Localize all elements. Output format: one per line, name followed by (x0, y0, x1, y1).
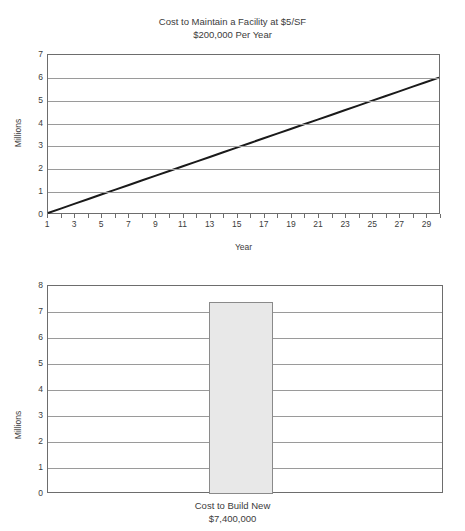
chart1-x-tick-mark (250, 214, 251, 218)
chart1-x-axis-title: Year (47, 242, 440, 252)
chart1-x-tick-mark (155, 214, 156, 218)
chart1-x-tick-mark (291, 214, 292, 218)
chart2-y-tick: 4 (38, 385, 43, 394)
chart1-x-tick-mark (61, 214, 62, 218)
chart1-x-tick: 19 (286, 219, 295, 229)
chart1-x-tick-mark (101, 214, 102, 218)
chart2-y-axis-title: Millions (13, 400, 23, 450)
chart1-x-tick-mark (440, 214, 441, 218)
chart1-y-tick: 4 (38, 118, 43, 127)
chart1-x-tick: 23 (340, 219, 349, 229)
chart1-x-tick: 21 (313, 219, 322, 229)
chart1-title-line2: $200,000 Per Year (0, 29, 465, 42)
chart1-x-tick-labels: 1357911131517192123252729 (47, 219, 440, 233)
chart1-y-tick: 3 (38, 141, 43, 150)
chart1-x-tick-mark (399, 214, 400, 218)
chart1-title-line1: Cost to Maintain a Facility at $5/SF (0, 16, 465, 29)
bar-chart-build-new-cost: Millions 876543210 Cost to Build New $7,… (0, 262, 465, 531)
chart2-plot-area (47, 285, 443, 493)
chart1-x-tick-mark (277, 214, 278, 218)
chart2-caption-line1: Cost to Build New (0, 500, 465, 513)
chart1-x-tick-mark (47, 214, 48, 218)
chart1-x-tick-mark (413, 214, 414, 218)
chart1-x-tick-mark (88, 214, 89, 218)
chart1-x-tick-mark (210, 214, 211, 218)
bar-cost-to-build-new (209, 302, 273, 494)
chart1-x-tick-mark (264, 214, 265, 218)
chart1-title: Cost to Maintain a Facility at $5/SF $20… (0, 16, 465, 41)
chart1-y-tick: 5 (38, 95, 43, 104)
chart1-x-tick-mark (345, 214, 346, 218)
chart1-x-tick-mark (196, 214, 197, 218)
chart1-x-tick: 17 (259, 219, 268, 229)
chart1-x-tick: 27 (395, 219, 404, 229)
chart1-y-tick: 7 (38, 50, 43, 59)
chart1-x-tick: 11 (178, 219, 187, 229)
chart1-x-tick-mark (237, 214, 238, 218)
chart1-gridline (48, 192, 439, 193)
chart1-y-tick: 2 (38, 164, 43, 173)
chart1-gridline (48, 146, 439, 147)
line-chart-maintenance-cost: Cost to Maintain a Facility at $5/SF $20… (0, 0, 465, 262)
chart2-y-tick-labels: 876543210 (28, 278, 43, 500)
chart1-y-tick-labels: 76543210 (28, 47, 43, 221)
chart1-y-axis-title: Millions (13, 108, 23, 158)
chart1-x-tick-mark (183, 214, 184, 218)
chart1-gridline (48, 169, 439, 170)
chart1-x-tick: 3 (72, 219, 77, 229)
chart2-y-tick: 7 (38, 307, 43, 316)
chart1-x-tick-mark (359, 214, 360, 218)
chart1-x-tick-mark (304, 214, 305, 218)
chart2-y-tick: 1 (38, 463, 43, 472)
chart1-y-tick: 6 (38, 72, 43, 81)
chart1-x-tick-mark (426, 214, 427, 218)
chart2-y-tick: 6 (38, 333, 43, 342)
chart1-x-tick-mark (372, 214, 373, 218)
chart1-x-tick: 7 (126, 219, 131, 229)
chart1-gridline (48, 124, 439, 125)
chart1-x-tick-mark (74, 214, 75, 218)
chart1-x-tick-mark (332, 214, 333, 218)
chart1-x-tick-mark (318, 214, 319, 218)
chart1-x-tick-mark (169, 214, 170, 218)
chart2-y-tick: 2 (38, 437, 43, 446)
chart1-gridline (48, 78, 439, 79)
chart1-x-tick-mark (223, 214, 224, 218)
chart1-x-tick-mark (386, 214, 387, 218)
chart2-y-tick: 3 (38, 411, 43, 420)
chart1-x-tick: 1 (45, 219, 50, 229)
chart1-x-tick: 15 (232, 219, 241, 229)
chart1-x-tick-mark (142, 214, 143, 218)
chart1-x-tick: 25 (368, 219, 377, 229)
chart2-caption-line2: $7,400,000 (0, 513, 465, 526)
chart1-x-tick: 13 (205, 219, 214, 229)
chart1-gridline (48, 101, 439, 102)
chart2-caption: Cost to Build New $7,400,000 (0, 500, 465, 525)
chart1-x-tick: 9 (153, 219, 158, 229)
chart1-x-tick: 5 (99, 219, 104, 229)
chart1-y-tick: 1 (38, 187, 43, 196)
chart2-y-tick: 0 (38, 489, 43, 498)
chart1-x-tick-mark (115, 214, 116, 218)
chart2-y-tick: 8 (38, 281, 43, 290)
chart1-x-tick: 29 (422, 219, 431, 229)
chart2-y-tick: 5 (38, 359, 43, 368)
chart1-plot-area (47, 54, 440, 214)
chart1-x-tick-mark (128, 214, 129, 218)
chart1-y-tick: 0 (38, 210, 43, 219)
